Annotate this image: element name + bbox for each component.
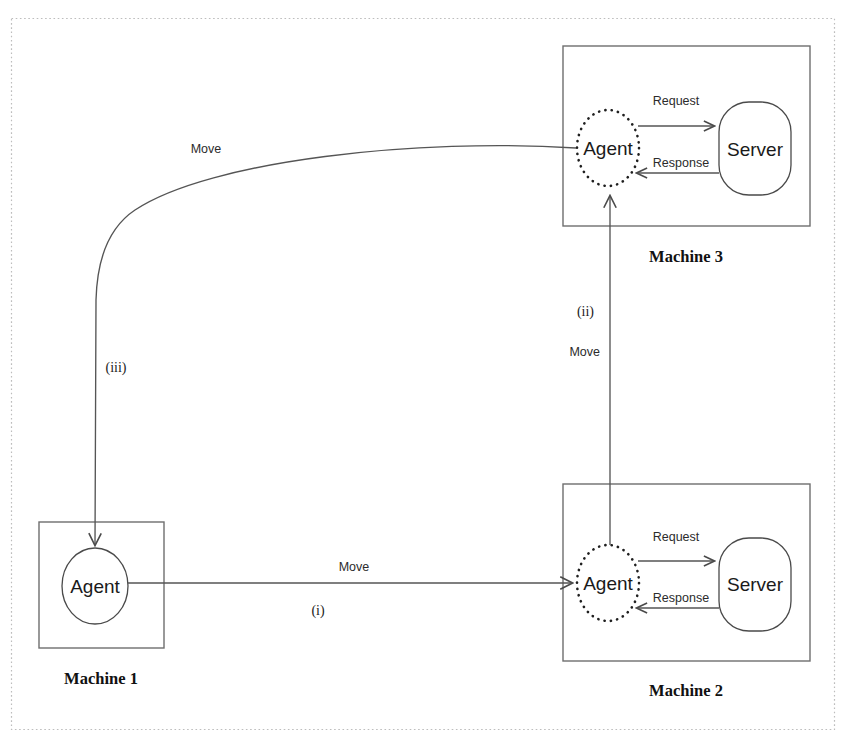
migration-step-3: Move (iii): [95, 142, 576, 545]
machine-1-caption: Machine 1: [64, 669, 138, 688]
migration-1-action-label: Move: [339, 560, 370, 574]
migration-3-arrow: [95, 146, 576, 545]
machine-3-agent-label: Agent: [583, 138, 633, 159]
machine-3-group: Agent Server Request Response Machine 3: [563, 46, 810, 266]
migration-2-step-label: (ii): [577, 304, 594, 320]
machine-3-caption: Machine 3: [649, 247, 723, 266]
page-border: [12, 19, 835, 730]
agent-migration-diagram: Agent Server Request Response Machine 3 …: [0, 0, 850, 745]
migration-step-2: (ii) Move: [569, 196, 610, 545]
migration-step-1: Move (i): [128, 560, 572, 619]
machine-2-server-label: Server: [727, 574, 784, 595]
migration-1-step-label: (i): [311, 603, 325, 619]
machine-2-caption: Machine 2: [649, 681, 723, 700]
migration-3-step-label: (iii): [106, 360, 127, 376]
migration-3-action-label: Move: [191, 142, 222, 156]
machine-3-request-label: Request: [653, 94, 700, 108]
machine-1-group: Agent Machine 1: [39, 522, 164, 688]
machine-2-response-label: Response: [653, 591, 709, 605]
machine-2-agent-label: Agent: [583, 573, 633, 594]
machine-1-agent-label: Agent: [70, 576, 120, 597]
machine-2-group: Agent Server Request Response Machine 2: [563, 484, 810, 700]
diagram-canvas: Agent Server Request Response Machine 3 …: [0, 0, 850, 745]
machine-3-boundary: [563, 46, 810, 226]
machine-3-server-label: Server: [727, 139, 784, 160]
machine-2-request-label: Request: [653, 530, 700, 544]
machine-3-response-label: Response: [653, 156, 709, 170]
migration-2-action-label: Move: [569, 345, 600, 359]
